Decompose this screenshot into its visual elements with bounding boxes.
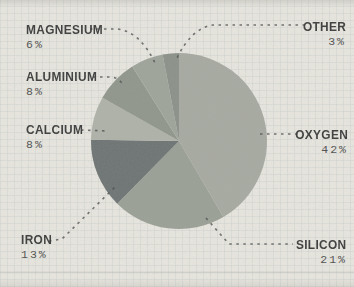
callout-calcium: CALCIUM 8% (26, 123, 91, 151)
callout-other-value: 3% (297, 36, 346, 48)
leader-line-iron (49, 187, 115, 241)
callout-aluminium: ALUMINIUM 8% (26, 70, 107, 98)
callout-other: OTHER 3% (297, 20, 346, 48)
callout-oxygen: OXYGEN 42% (288, 128, 348, 156)
callout-silicon-label: SILICON (296, 239, 347, 251)
callout-magnesium-value: 6% (26, 39, 114, 51)
callout-iron-label: IRON (21, 234, 52, 246)
callout-aluminium-value: 8% (26, 86, 107, 98)
callout-other-label: OTHER (303, 21, 346, 33)
callout-magnesium: MAGNESIUM 6% (26, 23, 114, 51)
callout-silicon: SILICON 21% (289, 238, 347, 266)
callout-magnesium-label: MAGNESIUM (26, 24, 103, 36)
callout-oxygen-label: OXYGEN (295, 129, 348, 141)
callout-iron-value: 13% (21, 249, 56, 261)
pie-slices (91, 53, 267, 229)
leader-line-silicon (206, 218, 293, 244)
callout-iron: IRON 13% (21, 233, 56, 261)
callout-silicon-value: 21% (289, 254, 347, 266)
callout-oxygen-value: 42% (288, 144, 348, 156)
element-composition-infographic: MAGNESIUM 6% ALUMINIUM 8% CALCIUM 8% IRO… (0, 0, 354, 287)
callout-calcium-label: CALCIUM (26, 124, 83, 136)
callout-calcium-value: 8% (26, 139, 91, 151)
callout-aluminium-label: ALUMINIUM (26, 71, 97, 83)
